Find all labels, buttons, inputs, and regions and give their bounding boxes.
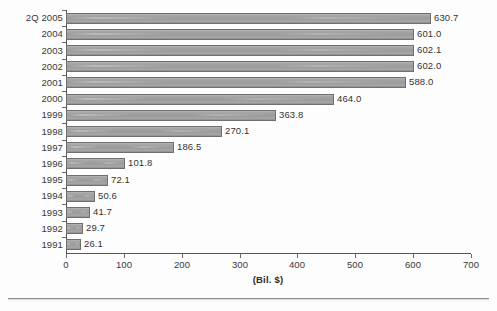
category-label: 1991 (41, 240, 63, 250)
y-axis-tick (62, 42, 66, 43)
category-label: 1995 (41, 175, 63, 185)
bar-row: 50.6 (66, 191, 135, 202)
bar-value-label: 26.1 (84, 238, 103, 250)
plot-area: 630.7601.0602.1602.0588.0464.0363.8270.1… (0, 0, 497, 311)
x-axis-tick (66, 254, 67, 258)
category-label: 1997 (41, 143, 63, 153)
bar-value-label: 602.0 (417, 60, 441, 72)
bar-row: 602.0 (66, 61, 454, 72)
bar-row: 601.0 (66, 29, 454, 40)
y-axis-tick (62, 107, 66, 108)
bar (66, 29, 414, 40)
x-axis-tick (240, 254, 241, 258)
y-axis-tick (62, 26, 66, 27)
bar-row: 602.1 (66, 45, 454, 56)
bar-value-label: 630.7 (434, 12, 458, 24)
x-axis-tick (297, 254, 298, 258)
x-axis-tick (182, 254, 183, 258)
y-axis-tick (62, 59, 66, 60)
bar (66, 77, 406, 88)
bar-value-label: 186.5 (177, 141, 201, 153)
bar (66, 207, 90, 218)
category-label: 2001 (41, 78, 63, 88)
category-label: 1999 (41, 110, 63, 120)
category-label: 1998 (41, 127, 63, 137)
bar (66, 13, 431, 24)
bar (66, 126, 222, 137)
bar (66, 158, 125, 169)
bar (66, 45, 414, 56)
category-label: 2004 (41, 29, 63, 39)
bar-row: 270.1 (66, 126, 262, 137)
bar (66, 94, 334, 105)
category-label: 1992 (41, 224, 63, 234)
category-label: 2Q 2005 (26, 13, 63, 23)
x-axis-tick (124, 254, 125, 258)
bar-value-label: 29.7 (86, 222, 105, 234)
bar (66, 61, 414, 72)
y-axis-tick (62, 237, 66, 238)
bar-value-label: 464.0 (337, 93, 361, 105)
y-axis-tick (62, 188, 66, 189)
bar-row: 630.7 (66, 13, 471, 24)
footer-divider-shadow (8, 299, 489, 301)
bar-value-label: 363.8 (279, 109, 303, 121)
bar-row: 186.5 (66, 142, 214, 153)
x-axis-tick-label: 500 (335, 259, 375, 271)
chart-figure: 630.7601.0602.1602.0588.0464.0363.8270.1… (0, 0, 497, 311)
bar-row: 464.0 (66, 94, 374, 105)
x-axis-tick (471, 254, 472, 258)
x-axis-tick (355, 254, 356, 258)
category-label: 1993 (41, 208, 63, 218)
y-axis-tick (62, 91, 66, 92)
x-axis-tick-label: 400 (277, 259, 317, 271)
y-axis-tick (62, 10, 66, 11)
bar-row: 363.8 (66, 110, 316, 121)
category-label: 2003 (41, 46, 63, 56)
category-label: 2000 (41, 94, 63, 104)
x-axis-tick-label: 100 (104, 259, 144, 271)
y-axis-tick (62, 204, 66, 205)
bar (66, 175, 108, 186)
bar-value-label: 588.0 (409, 76, 433, 88)
x-axis-tick-label: 700 (451, 259, 491, 271)
bar (66, 223, 83, 234)
x-axis-title: (Bil. $) (218, 274, 318, 285)
y-axis-tick (62, 172, 66, 173)
bar-row: 72.1 (66, 175, 148, 186)
bar-row: 101.8 (66, 158, 165, 169)
bar-value-label: 601.0 (417, 28, 441, 40)
bar-row: 41.7 (66, 207, 130, 218)
bar-value-label: 41.7 (93, 206, 112, 218)
x-axis-tick (413, 254, 414, 258)
bar-value-label: 50.6 (98, 190, 117, 202)
category-label: 1994 (41, 191, 63, 201)
category-label: 1996 (41, 159, 63, 169)
bar-row: 588.0 (66, 77, 446, 88)
bar (66, 110, 276, 121)
y-axis-tick (62, 123, 66, 124)
bar-value-label: 602.1 (417, 44, 441, 56)
x-axis-tick-label: 0 (46, 259, 86, 271)
bar (66, 239, 81, 250)
category-label: 2002 (41, 62, 63, 72)
y-axis-tick (62, 221, 66, 222)
bar-value-label: 72.1 (111, 174, 130, 186)
bar (66, 191, 95, 202)
bar-row: 29.7 (66, 223, 123, 234)
x-axis-line (66, 253, 471, 254)
bar-row: 26.1 (66, 239, 121, 250)
x-axis-tick-label: 600 (393, 259, 433, 271)
y-axis-tick (62, 75, 66, 76)
x-axis-tick-label: 300 (220, 259, 260, 271)
y-axis-tick (62, 156, 66, 157)
x-axis-tick-label: 200 (162, 259, 202, 271)
bar (66, 142, 174, 153)
bar-value-label: 270.1 (225, 125, 249, 137)
y-axis-tick (62, 140, 66, 141)
bar-value-label: 101.8 (128, 157, 152, 169)
